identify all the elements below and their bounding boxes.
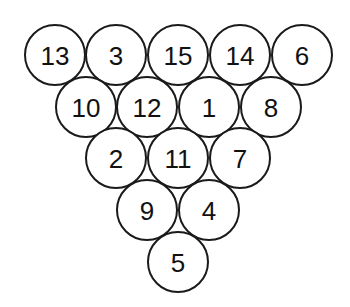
ball-number: 12 bbox=[133, 93, 162, 123]
ball-number: 1 bbox=[202, 93, 216, 123]
ball-number: 11 bbox=[165, 144, 192, 174]
ball-number: 8 bbox=[264, 93, 278, 123]
ball-number: 10 bbox=[72, 93, 101, 123]
ball-1: 1 bbox=[179, 77, 239, 137]
ball-number: 13 bbox=[41, 41, 70, 71]
ball-7: 7 bbox=[210, 128, 270, 188]
ball-number: 7 bbox=[233, 144, 247, 174]
rack-row: 2117 bbox=[86, 128, 270, 188]
ball-number: 14 bbox=[226, 41, 255, 71]
ball-number: 3 bbox=[109, 41, 123, 71]
ball-rack-diagram: 133151461012182117945 bbox=[0, 0, 350, 307]
ball-3: 3 bbox=[86, 25, 146, 85]
ball-11: 11 bbox=[148, 128, 208, 188]
ball-13: 13 bbox=[25, 25, 85, 85]
ball-number: 5 bbox=[171, 248, 185, 278]
ball-number: 15 bbox=[164, 41, 193, 71]
ball-4: 4 bbox=[179, 180, 239, 240]
ball-number: 9 bbox=[140, 196, 154, 226]
rack-row: 5 bbox=[148, 232, 208, 292]
ball-9: 9 bbox=[117, 180, 177, 240]
ball-2: 2 bbox=[86, 128, 146, 188]
ball-8: 8 bbox=[241, 77, 301, 137]
ball-number: 4 bbox=[202, 196, 216, 226]
ball-5: 5 bbox=[148, 232, 208, 292]
ball-15: 15 bbox=[148, 25, 208, 85]
ball-number: 6 bbox=[295, 41, 309, 71]
ball-6: 6 bbox=[272, 25, 332, 85]
ball-number: 2 bbox=[109, 144, 123, 174]
ball-14: 14 bbox=[210, 25, 270, 85]
ball-12: 12 bbox=[117, 77, 177, 137]
rack-row: 13315146 bbox=[25, 25, 332, 85]
ball-10: 10 bbox=[56, 77, 116, 137]
